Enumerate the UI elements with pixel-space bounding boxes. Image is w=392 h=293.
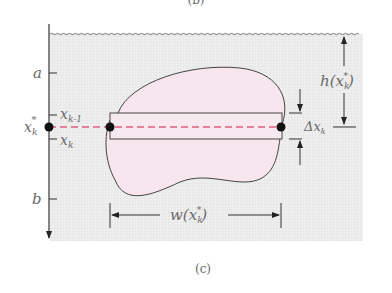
horizontal-strip — [110, 113, 282, 139]
strip-right-point — [277, 123, 286, 132]
figure-caption: (c) — [195, 262, 211, 276]
axis-sample-point — [45, 123, 54, 132]
label-b: b — [32, 190, 42, 208]
figure-c: (b) a b xk* xk-1 xk h(xk*) Δxk w(xk*) (c… — [0, 0, 392, 293]
strip-left-point — [106, 123, 115, 132]
label-x-star: xk* — [24, 114, 37, 137]
depth-label: h(xk*) — [320, 71, 354, 91]
label-a: a — [33, 64, 42, 82]
top-caption-fragment: (b) — [187, 0, 204, 7]
width-label: w(xk*) — [170, 205, 207, 225]
